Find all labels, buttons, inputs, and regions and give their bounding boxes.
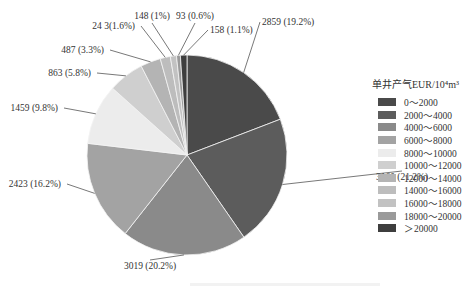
legend-swatch — [378, 199, 396, 207]
slice-label: 2423 (16.2%) — [9, 179, 61, 190]
legend-swatch — [378, 174, 396, 182]
legend-item: 8000～10000 — [378, 146, 462, 159]
leader-line — [141, 26, 165, 57]
slice-label: 158 (1.1%) — [210, 25, 253, 36]
slice-label: 1459 (9.8%) — [11, 103, 59, 114]
leader-line — [178, 23, 195, 55]
leader-line — [110, 50, 151, 62]
slice-label: 24 3(1.6%) — [92, 21, 135, 32]
legend-swatch — [378, 111, 396, 119]
slice-label: 93 (0.6%) — [176, 11, 214, 22]
legend-swatch — [378, 224, 396, 232]
slice-label: 148 (1%) — [134, 11, 170, 22]
legend-title: 单井产气EUR/10⁴m³ — [372, 76, 462, 91]
slice-label: 3019 (20.2%) — [124, 261, 176, 272]
leader-line — [152, 23, 173, 56]
legend-swatch — [378, 212, 396, 220]
legend-swatch — [378, 136, 396, 144]
legend-item: ＞20000 — [378, 222, 462, 235]
leader-line — [184, 30, 208, 55]
pie-slices — [87, 55, 287, 255]
legend-label: ＞20000 — [404, 221, 438, 235]
legend: 单井产气EUR/10⁴m³ 0～20002000～40004000～600060… — [378, 76, 462, 235]
legend-item: 6000～8000 — [378, 134, 462, 147]
slice-label: 863 (5.8%) — [48, 68, 91, 79]
legend-swatch — [378, 98, 396, 106]
legend-swatch — [378, 149, 396, 157]
leader-line — [97, 73, 126, 76]
legend-item: 18000～20000 — [378, 209, 462, 222]
leader-line — [150, 255, 184, 260]
legend-item: 4000～6000 — [378, 121, 462, 134]
legend-item: 12000～14000 — [378, 172, 462, 185]
legend-item: 2000～4000 — [378, 109, 462, 122]
legend-swatch — [378, 186, 396, 194]
legend-swatch — [378, 161, 396, 169]
legend-item: 16000～18000 — [378, 197, 462, 210]
legend-item: 10000～12000 — [378, 159, 462, 172]
figure-caption — [190, 283, 380, 286]
leader-line — [64, 108, 96, 114]
slice-label: 2859 (19.2%) — [262, 17, 314, 28]
slice-label: 487 (3.3%) — [61, 45, 104, 56]
legend-swatch — [378, 123, 396, 131]
legend-item: 14000～16000 — [378, 184, 462, 197]
leader-line — [67, 184, 95, 193]
legend-item: 0～2000 — [378, 96, 462, 109]
